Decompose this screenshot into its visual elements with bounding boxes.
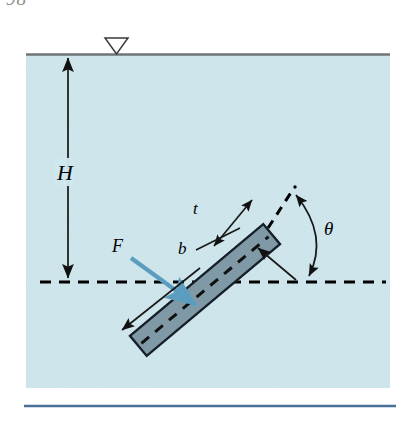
depth-label-H: H: [56, 160, 74, 185]
figure-root: 98: [0, 0, 420, 424]
angle-label-theta: θ: [324, 218, 333, 239]
water-panel: [26, 54, 390, 388]
water-level-symbol-icon: [105, 38, 128, 54]
inclined-plate-figure: H t b F: [0, 0, 420, 424]
force-label-F: F: [111, 236, 124, 256]
water-body-texture: [26, 54, 390, 388]
width-label-b: b: [178, 239, 187, 258]
